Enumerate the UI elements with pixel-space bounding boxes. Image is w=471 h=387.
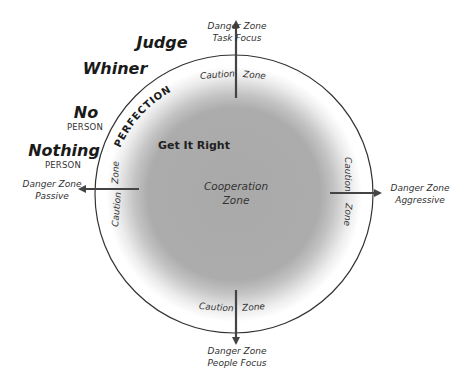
danger-bottom-line2: People Focus: [207, 358, 266, 368]
caution-bottom-right: Zone: [241, 301, 266, 313]
caution-top-right: Zone: [242, 69, 267, 81]
danger-right-line2: Aggressive: [394, 195, 445, 205]
get-it-right-label: Get It Right: [158, 139, 230, 152]
type-no: No: [74, 103, 98, 122]
behavior-zone-diagram: Cooperation Zone Get It Right PERFECTION…: [0, 0, 471, 387]
type-whiner: Whiner: [83, 59, 149, 78]
danger-left-line1: Danger Zone: [23, 179, 82, 189]
caution-right-top: Caution: [343, 157, 353, 192]
danger-left-line2: Passive: [35, 191, 69, 201]
cooperation-zone-label: Zone: [222, 194, 250, 206]
cooperation-label: Cooperation: [204, 180, 268, 192]
caution-right-bottom: Zone: [342, 202, 354, 227]
danger-top-line2: Task Focus: [213, 33, 262, 43]
type-nothing: Nothing: [28, 141, 100, 160]
type-nothing-sub: PERSON: [45, 160, 81, 170]
danger-top-line1: Danger Zone: [208, 21, 267, 31]
type-judge: Judge: [133, 33, 187, 52]
type-no-sub: PERSON: [67, 122, 103, 132]
danger-right-line1: Danger Zone: [391, 183, 450, 193]
danger-bottom-line1: Danger Zone: [208, 346, 267, 356]
caution-left-top: Zone: [110, 160, 121, 185]
